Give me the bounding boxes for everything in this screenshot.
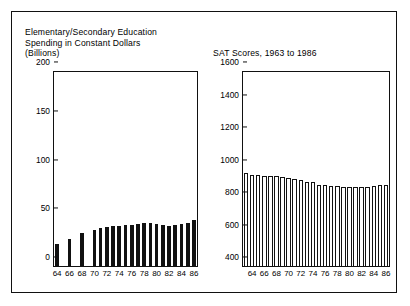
bar-sat-scores-71	[292, 179, 297, 267]
y-tick-education-spending-200: 200	[36, 57, 54, 67]
x-tick-label-sat-scores-70: 70	[284, 269, 293, 278]
bar-group-sat-scores	[243, 72, 389, 267]
x-tick-label-sat-scores-86: 86	[382, 269, 391, 278]
plot-area-sat-scores: 646668707274767880828486 400600800100012…	[242, 71, 390, 267]
bar-sat-scores-84	[372, 186, 377, 267]
x-tick-label-education-spending-82: 82	[165, 269, 174, 278]
bar-education-spending-83	[173, 225, 177, 267]
bar-sat-scores-69	[280, 177, 285, 267]
bar-sat-scores-67	[268, 176, 273, 267]
y-tick-sat-scores-1400: 1400	[220, 90, 243, 100]
figure-frame: Elementary/Secondary Education Spending …	[11, 11, 397, 293]
y-tick-mark-icon	[243, 256, 247, 257]
x-tick-label-sat-scores-84: 84	[369, 269, 378, 278]
bar-sat-scores-86	[384, 185, 389, 267]
chart-panel-sat-scores: SAT Scores, 1963 to 1986 646668707274767…	[202, 12, 398, 292]
y-tick-education-spending-0: 0	[45, 252, 54, 262]
bar-sat-scores-65	[256, 175, 261, 267]
bar-education-spending-70	[93, 230, 97, 267]
x-tick-label-education-spending-84: 84	[177, 269, 186, 278]
bar-sat-scores-72	[299, 180, 304, 267]
bar-education-spending-84	[180, 224, 184, 267]
bar-education-spending-82	[167, 226, 171, 267]
x-tick-label-sat-scores-64: 64	[248, 269, 257, 278]
x-tick-label-education-spending-80: 80	[152, 269, 161, 278]
chart-title-education-spending: Elementary/Secondary Education Spending …	[25, 27, 157, 59]
y-tick-mark-icon	[54, 61, 58, 62]
bar-sat-scores-63	[244, 173, 249, 267]
x-tick-label-education-spending-72: 72	[102, 269, 111, 278]
bar-education-spending-73	[111, 226, 115, 267]
bar-education-spending-71	[99, 228, 103, 267]
x-tick-label-sat-scores-76: 76	[321, 269, 330, 278]
x-tick-label-education-spending-64: 64	[53, 269, 62, 278]
bar-education-spending-76	[130, 225, 134, 267]
x-tick-labels-right: 646668707274767880828486	[243, 267, 389, 281]
y-tick-sat-scores-600: 600	[225, 220, 243, 230]
x-tick-label-education-spending-86: 86	[189, 269, 198, 278]
y-tick-education-spending-100: 100	[36, 155, 54, 165]
bar-sat-scores-85	[378, 185, 383, 267]
y-tick-mark-icon	[243, 61, 247, 62]
bar-sat-scores-64	[250, 175, 255, 267]
x-tick-label-education-spending-70: 70	[90, 269, 99, 278]
x-tick-label-education-spending-78: 78	[140, 269, 149, 278]
y-tick-mark-icon	[54, 208, 58, 209]
bar-education-spending-75	[124, 225, 128, 267]
bar-education-spending-79	[149, 223, 153, 267]
y-tick-sat-scores-1600: 1600	[220, 57, 243, 67]
bar-education-spending-72	[105, 227, 109, 267]
bar-education-spending-66	[68, 239, 72, 267]
x-tick-label-education-spending-68: 68	[78, 269, 87, 278]
x-tick-label-sat-scores-66: 66	[260, 269, 269, 278]
x-tick-label-sat-scores-68: 68	[272, 269, 281, 278]
chart-panel-education-spending: Elementary/Secondary Education Spending …	[12, 12, 202, 292]
x-tick-label-sat-scores-82: 82	[357, 269, 366, 278]
y-tick-sat-scores-1000: 1000	[220, 155, 243, 165]
x-tick-labels-left: 646668707274767880828486	[54, 267, 197, 281]
x-tick-label-sat-scores-74: 74	[309, 269, 318, 278]
bar-education-spending-86	[192, 220, 196, 267]
bar-sat-scores-73	[305, 182, 310, 267]
bar-education-spending-74	[117, 226, 121, 267]
x-tick-label-sat-scores-80: 80	[345, 269, 354, 278]
y-tick-mark-icon	[243, 224, 247, 225]
bar-sat-scores-76	[323, 185, 328, 267]
y-tick-sat-scores-800: 800	[225, 187, 243, 197]
y-tick-education-spending-150: 150	[36, 106, 54, 116]
bar-sat-scores-75	[317, 185, 322, 267]
bar-sat-scores-70	[286, 178, 291, 267]
bar-education-spending-80	[155, 224, 159, 267]
bar-sat-scores-77	[329, 186, 334, 267]
bar-education-spending-64	[55, 244, 59, 267]
x-tick-label-sat-scores-78: 78	[333, 269, 342, 278]
bar-education-spending-85	[186, 223, 190, 267]
x-tick-label-education-spending-76: 76	[127, 269, 136, 278]
y-tick-mark-icon	[54, 256, 58, 257]
y-tick-education-spending-50: 50	[41, 203, 54, 213]
y-tick-sat-scores-400: 400	[225, 252, 243, 262]
x-tick-label-education-spending-74: 74	[115, 269, 124, 278]
x-tick-label-education-spending-66: 66	[65, 269, 74, 278]
y-tick-mark-icon	[243, 126, 247, 127]
x-tick-label-sat-scores-72: 72	[296, 269, 305, 278]
y-tick-mark-icon	[243, 159, 247, 160]
y-tick-mark-icon	[243, 94, 247, 95]
bar-education-spending-78	[142, 223, 146, 267]
bar-sat-scores-82	[359, 187, 364, 267]
bar-group-education-spending	[54, 72, 197, 267]
bar-sat-scores-80	[347, 187, 352, 267]
bar-sat-scores-81	[353, 187, 358, 267]
y-tick-mark-icon	[54, 110, 58, 111]
bar-sat-scores-68	[274, 176, 279, 267]
bar-sat-scores-79	[341, 187, 346, 267]
y-tick-mark-icon	[243, 191, 247, 192]
bar-education-spending-77	[136, 224, 140, 267]
bar-sat-scores-66	[262, 176, 267, 267]
bar-sat-scores-83	[365, 187, 370, 267]
y-tick-mark-icon	[54, 159, 58, 160]
y-tick-sat-scores-1200: 1200	[220, 122, 243, 132]
bar-sat-scores-78	[335, 186, 340, 267]
bar-education-spending-81	[161, 225, 165, 267]
bar-sat-scores-74	[311, 182, 316, 267]
